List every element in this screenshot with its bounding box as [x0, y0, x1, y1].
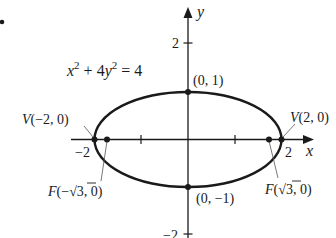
leader-vertex-right	[283, 124, 295, 137]
focus-left-close: , 0)	[84, 184, 103, 200]
focus-left-label: F(−√3, 0)	[47, 184, 103, 200]
focus-right-close: , 0)	[293, 182, 312, 198]
leader-vertex-left	[84, 126, 93, 137]
y-axis-arrow-icon	[184, 7, 193, 18]
focus-right-dot	[266, 137, 272, 143]
equation-plus: + 4	[80, 62, 105, 79]
focus-right-prefix: F	[264, 182, 274, 197]
vertex-right-dot	[279, 137, 285, 143]
ellipse-diagram: x2 + 4y2 = 4 y x 2 −2 −2 2 (0, 1) (0, −1…	[0, 0, 336, 238]
covertex-bottom-dot	[185, 184, 191, 190]
covertex-top-label: (0, 1)	[193, 73, 224, 89]
y-tick-label-pos: 2	[172, 36, 179, 51]
equation-label: x2 + 4y2 = 4	[66, 59, 142, 80]
covertex-bottom-label: (0, −1)	[196, 191, 235, 207]
equation-x: x	[66, 62, 74, 79]
y-axis-label: y	[195, 3, 205, 21]
y-tick-label-neg: −2	[163, 228, 178, 238]
focus-right-label: F(√3, 0)	[264, 182, 312, 198]
vertex-right-label: V(2, 0)	[290, 110, 329, 126]
focus-left-prefix: F	[47, 184, 57, 199]
vertex-right-coords: (2, 0)	[299, 110, 330, 126]
x-tick-label-pos: 2	[285, 145, 292, 160]
vertex-left-label: V(−2, 0)	[22, 112, 69, 128]
focus-left-dot	[104, 137, 110, 143]
x-axis-label: x	[305, 142, 313, 159]
focus-left-open: (−	[57, 184, 70, 200]
leader-focus-right	[269, 141, 278, 178]
covertex-top-dot	[185, 89, 191, 95]
equation-rhs: = 4	[117, 62, 142, 79]
x-tick-label-neg: −2	[75, 145, 90, 160]
focus-left-radicand: 3	[77, 184, 84, 199]
vertex-left-coords: (−2, 0)	[31, 112, 70, 128]
focus-right-radicand: 3	[286, 182, 293, 197]
bullet-dot	[0, 20, 4, 25]
vertex-left-dot	[92, 137, 98, 143]
